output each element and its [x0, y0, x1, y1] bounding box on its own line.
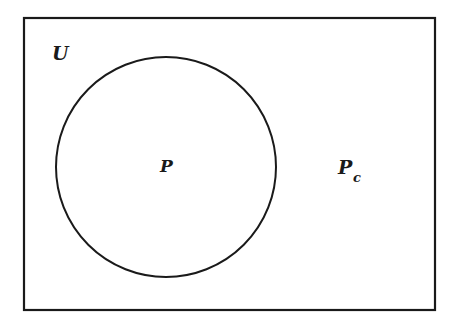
complement-subscript: c: [353, 170, 361, 185]
universe-rectangle: [24, 18, 435, 310]
universe-label: U: [52, 42, 70, 64]
complement-label: P: [337, 156, 353, 178]
venn-diagram: U P P c: [0, 0, 457, 326]
set-label: P: [159, 156, 174, 176]
